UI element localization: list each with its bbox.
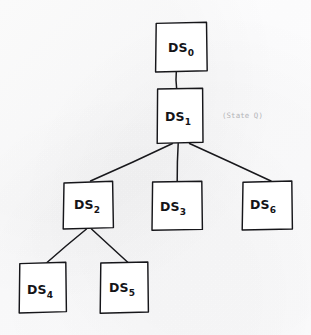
node-ds2-subscript: 2: [94, 205, 100, 215]
edge-ds1-ds3: [177, 144, 178, 182]
node-ds1[interactable]: DS1: [157, 88, 203, 143]
edge-ds0-ds1: [176, 72, 177, 88]
edge-ds2-ds4: [47, 229, 87, 263]
node-layer: DS0 DS1 DS2 DS3: [19, 22, 292, 313]
node-ds5[interactable]: DS5: [100, 262, 148, 313]
node-ds3[interactable]: DS3: [152, 181, 202, 230]
node-ds4[interactable]: DS4: [19, 262, 66, 313]
node-ds3-subscript: 3: [180, 207, 186, 217]
edge-ds1-ds2: [91, 144, 173, 182]
node-ds4-subscript: 4: [47, 290, 53, 300]
node-ds2[interactable]: DS2: [63, 181, 113, 229]
node-ds1-subscript: 1: [185, 117, 191, 127]
node-ds6-subscript: 6: [270, 205, 276, 215]
state-q-annotation: (State Q): [222, 111, 263, 120]
diagram-canvas-container: DS0 DS1 DS2 DS3: [0, 0, 311, 335]
edge-ds1-ds6: [190, 144, 272, 182]
node-ds0-subscript: 0: [188, 48, 194, 58]
node-ds5-subscript: 5: [129, 288, 135, 298]
edge-ds2-ds5: [92, 229, 129, 263]
node-ds6[interactable]: DS6: [242, 181, 292, 230]
annotation-layer: (State Q): [222, 111, 263, 120]
node-ds0[interactable]: DS0: [156, 22, 208, 72]
tree-diagram: DS0 DS1 DS2 DS3: [0, 0, 311, 335]
